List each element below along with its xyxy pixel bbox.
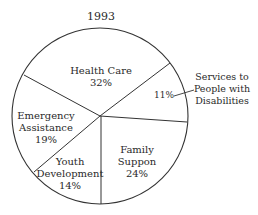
slice-percent: 14% — [59, 180, 81, 191]
slice-percent: 32% — [90, 77, 112, 88]
slice-label: Suppon — [118, 156, 157, 167]
slice-label: Youth — [55, 156, 85, 167]
slice-label: Emergency — [17, 110, 75, 121]
pie-chart: 1993 Health Care 32% 11% Services to Peo… — [0, 0, 258, 215]
slice-percent: 24% — [126, 168, 148, 179]
slice-label: Family — [120, 144, 154, 155]
slice-label: Disabilities — [195, 95, 249, 106]
slice-percent: 11% — [154, 90, 174, 100]
slice-label: Health Care — [70, 65, 132, 76]
slice-label: Services to — [195, 71, 249, 82]
slice-label: People with — [194, 83, 250, 94]
slice-label: Development — [37, 168, 104, 179]
slice-label: Assistance — [18, 122, 73, 133]
slice-percent: 19% — [35, 134, 57, 145]
chart-title: 1993 — [87, 10, 115, 23]
